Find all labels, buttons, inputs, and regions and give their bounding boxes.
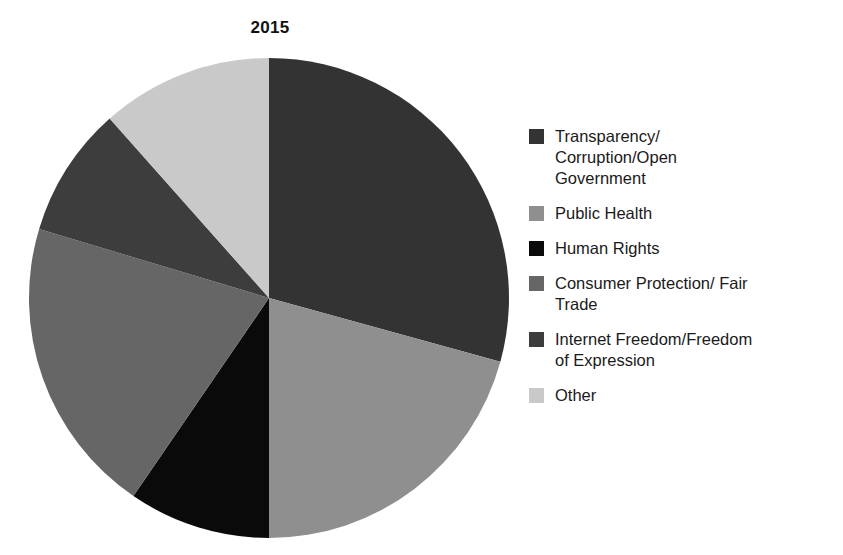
legend-color-swatch [529,241,544,256]
legend-item-label: Other [555,385,596,406]
legend-color-swatch [529,276,544,291]
legend-item-label: Human Rights [555,238,660,259]
pie-chart-plot-area [28,57,510,539]
legend-item: Public Health [529,203,829,224]
legend-item-label: Consumer Protection/ Fair Trade [555,273,748,315]
legend-color-swatch [529,332,544,347]
legend-item-label: Public Health [555,203,652,224]
legend-item-label: Internet Freedom/Freedom of Expression [555,329,752,371]
legend-item: Consumer Protection/ Fair Trade [529,273,829,315]
legend-item: Other [529,385,829,406]
pie-svg [28,57,510,539]
legend-color-swatch [529,129,544,144]
chart-title: 2015 [205,18,335,38]
pie-chart-figure: 2015 Transparency/ Corruption/Open Gover… [0,0,843,555]
legend-color-swatch [529,388,544,403]
legend-item: Human Rights [529,238,829,259]
legend-item: Internet Freedom/Freedom of Expression [529,329,829,371]
legend-color-swatch [529,206,544,221]
legend-item: Transparency/ Corruption/Open Government [529,126,829,189]
pie-slice-group [29,58,509,538]
legend-item-label: Transparency/ Corruption/Open Government [555,126,677,189]
chart-legend: Transparency/ Corruption/Open Government… [529,126,829,406]
